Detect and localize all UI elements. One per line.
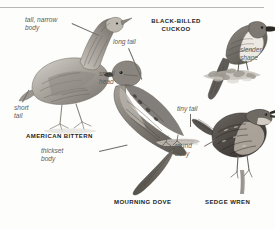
annotation-thickset-body-line1: thickset <box>41 147 63 155</box>
annotation-slender-shape: slender shape <box>240 46 262 62</box>
sedge-wren-illustration <box>192 100 278 196</box>
species-name-black-billed-cuckoo: BLACK-BILLED CUCKOO <box>145 18 207 34</box>
right-margin <box>275 0 279 229</box>
annotation-short-tail-line2: tail <box>14 112 29 120</box>
annotation-short-tail: short tail <box>14 104 29 120</box>
species-name-mourning-dove: MOURNING DOVE <box>114 199 171 207</box>
annotation-thickset-body-line2: body <box>41 155 63 163</box>
species-name-sedge-wren: SEDGE WREN <box>205 199 250 207</box>
annotation-short-tail-line1: short <box>14 104 29 112</box>
annotation-long-tail-line1: long tail <box>113 38 136 46</box>
species-name-black-billed-cuckoo-line1: BLACK-BILLED <box>145 18 207 26</box>
annotation-tiny-tail-line1: tiny tail <box>177 105 198 113</box>
bird-identification-plate: tall, narrow body short tail AMERICAN BI… <box>0 0 279 229</box>
annotation-long-tail: long tail <box>113 38 136 46</box>
annotation-slender-shape-line2: shape <box>240 54 262 62</box>
annotation-small-head-line2: head <box>99 78 114 86</box>
leader-tiny-tail <box>190 114 191 127</box>
annotation-tiny-tail: tiny tail <box>177 105 198 113</box>
annotation-small-head-line1: small <box>99 70 114 78</box>
annotation-round-body-line1: round <box>175 142 192 150</box>
annotation-round-body: round body <box>175 142 192 158</box>
annotation-tall-narrow-body-line1: tall, narrow <box>25 16 57 24</box>
top-divider-rule <box>0 7 264 8</box>
annotation-tall-narrow-body-line2: body <box>25 24 57 32</box>
species-name-black-billed-cuckoo-line2: CUCKOO <box>145 26 207 34</box>
annotation-tall-narrow-body: tall, narrow body <box>25 16 57 32</box>
annotation-thickset-body: thickset body <box>41 147 63 163</box>
leader-slender-shape <box>227 50 238 51</box>
annotation-slender-shape-line1: slender <box>240 46 262 54</box>
annotation-small-head: small head <box>99 70 114 86</box>
species-name-american-bittern: AMERICAN BITTERN <box>26 133 93 141</box>
annotation-round-body-line2: body <box>175 150 192 158</box>
